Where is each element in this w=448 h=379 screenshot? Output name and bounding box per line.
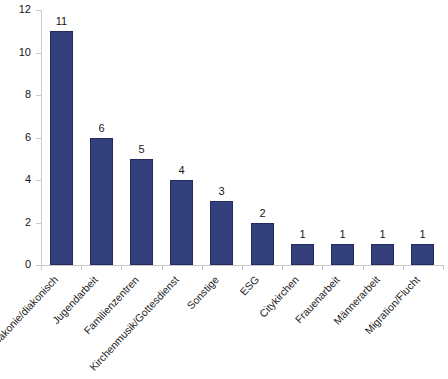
y-tick-mark <box>36 53 41 54</box>
y-tick-label-text: 10 <box>19 47 31 58</box>
bar <box>130 159 153 265</box>
bar <box>331 244 354 265</box>
bar <box>291 244 314 265</box>
bar <box>411 244 434 265</box>
x-tick-mark <box>41 265 42 270</box>
x-tick-mark <box>81 265 82 270</box>
x-tick-mark <box>322 265 323 270</box>
y-tick-label-text: 4 <box>25 174 31 185</box>
x-tick-mark <box>162 265 163 270</box>
x-tick-mark <box>403 265 404 270</box>
bar-value-label: 5 <box>118 144 165 155</box>
bar <box>210 201 233 265</box>
bar-value-label: 2 <box>239 208 286 219</box>
y-tick-mark <box>36 223 41 224</box>
x-tick-mark <box>242 265 243 270</box>
y-tick-mark <box>36 138 41 139</box>
bar-value-label: 4 <box>158 165 205 176</box>
y-tick-label-text: 2 <box>25 217 31 228</box>
bar <box>371 244 394 265</box>
bar-value-label: 6 <box>78 123 125 134</box>
category-label: ESG <box>238 274 261 298</box>
x-tick-mark <box>202 265 203 270</box>
bar <box>251 223 274 265</box>
bar <box>90 138 113 265</box>
y-tick-label-text: 8 <box>25 89 31 100</box>
category-label: Sonstige <box>185 274 221 311</box>
y-axis-line <box>41 10 42 266</box>
y-tick-mark <box>36 95 41 96</box>
x-tick-mark <box>443 265 444 270</box>
y-tick-mark <box>36 180 41 181</box>
bar <box>170 180 193 265</box>
y-tick-mark <box>36 10 41 11</box>
x-tick-mark <box>121 265 122 270</box>
bar-value-label: 1 <box>399 229 446 240</box>
category-label: Diakonie/diakonisch <box>0 274 60 350</box>
bar-value-label: 3 <box>198 186 245 197</box>
y-tick-label-text: 12 <box>19 4 31 15</box>
x-tick-mark <box>282 265 283 270</box>
y-tick-label-text: 6 <box>25 132 31 143</box>
bar-chart: 024681012 11654321111 Diakonie/diakonisc… <box>0 0 448 379</box>
bar-value-label: 11 <box>38 16 85 27</box>
x-tick-mark <box>363 265 364 270</box>
y-tick-label-text: 0 <box>25 259 31 270</box>
bar <box>50 31 73 265</box>
